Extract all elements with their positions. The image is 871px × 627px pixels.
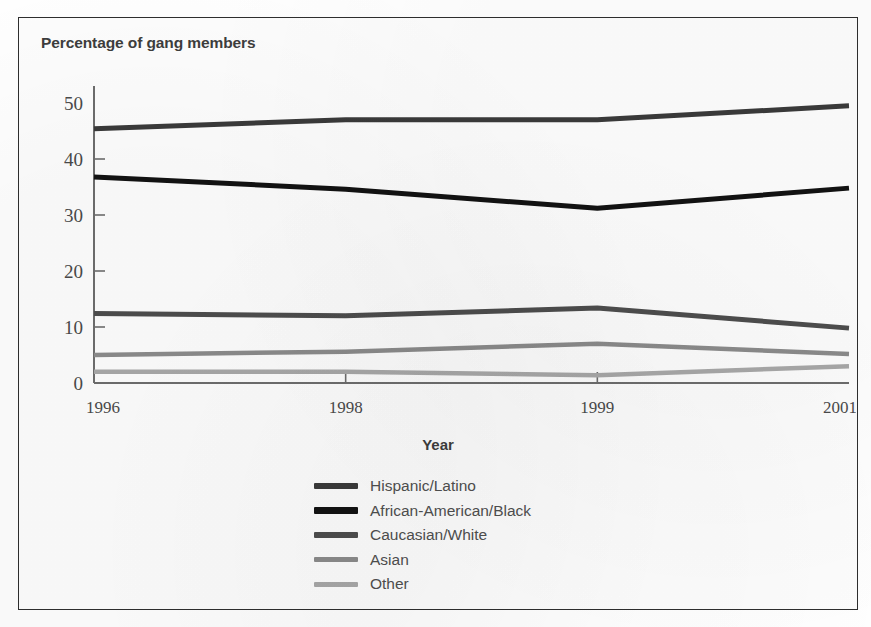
legend-item: Asian [314, 551, 531, 569]
x-tick-label: 2001 [823, 398, 856, 417]
legend-label: Caucasian/White [370, 526, 487, 544]
y-tick-label: 0 [74, 373, 84, 394]
legend-swatch [314, 557, 358, 562]
y-tick-label: 30 [64, 205, 83, 226]
y-tick-label: 20 [64, 261, 83, 282]
legend-label: Asian [370, 551, 409, 569]
legend-swatch [314, 507, 358, 514]
legend-swatch [314, 483, 358, 489]
y-tick-label: 40 [64, 149, 83, 170]
y-tick-label: 50 [64, 93, 83, 114]
legend-swatch [314, 582, 358, 587]
legend-swatch [314, 532, 358, 538]
x-axis-title: Year [19, 436, 857, 453]
series-line [94, 106, 849, 129]
line-chart-plot: 01020304050 1996199819992001 [19, 18, 856, 448]
legend-label: Hispanic/Latino [370, 477, 476, 495]
x-tick-label: 1998 [329, 398, 363, 417]
series-line [94, 308, 849, 328]
y-tick-label: 10 [64, 317, 83, 338]
x-axis-tick-labels: 1996199819992001 [86, 398, 856, 417]
y-axis-tick-labels: 01020304050 [64, 93, 83, 394]
legend-label: African-American/Black [370, 502, 531, 520]
series-lines [94, 106, 849, 375]
chart-legend: Hispanic/LatinoAfrican-American/BlackCau… [314, 477, 531, 593]
legend-item: Caucasian/White [314, 526, 531, 544]
series-line [94, 177, 849, 208]
series-line [94, 366, 849, 375]
legend-item: Hispanic/Latino [314, 477, 531, 495]
x-tick-label: 1996 [86, 398, 120, 417]
legend-item: Other [314, 575, 531, 593]
legend-item: African-American/Black [314, 502, 531, 520]
legend-label: Other [370, 575, 409, 593]
figure-frame: Percentage of gang members 01020304050 1… [18, 17, 858, 610]
y-axis-ticks [94, 159, 105, 327]
series-line [94, 344, 849, 355]
x-tick-label: 1999 [580, 398, 614, 417]
